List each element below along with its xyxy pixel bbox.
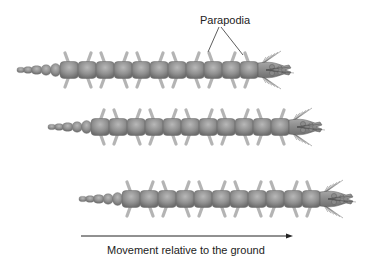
head (320, 180, 356, 218)
diagram-canvas: Parapodia Movement relative to the groun… (0, 0, 375, 264)
parapodia-leader-lines (208, 27, 243, 55)
tail (17, 64, 61, 77)
movement-arrow (81, 233, 293, 238)
worm-middle (48, 108, 325, 146)
body-segments (60, 62, 258, 79)
head (258, 51, 294, 89)
parapodia-label: Parapodia (200, 14, 250, 26)
head (289, 108, 325, 146)
worm-top (17, 51, 294, 89)
movement-label: Movement relative to the ground (107, 244, 265, 256)
worm-bottom (79, 180, 356, 218)
body-segments (91, 119, 289, 136)
body-segments (122, 191, 320, 208)
tail (79, 193, 123, 206)
tail (48, 121, 92, 134)
worm-locomotion-diagram (0, 0, 375, 264)
